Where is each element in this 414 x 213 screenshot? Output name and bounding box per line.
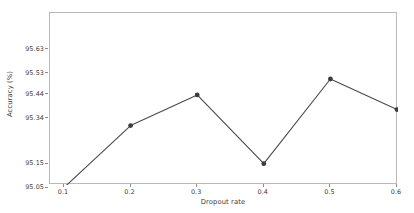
x-tick-label: 0.1: [58, 189, 68, 195]
x-tick-label: 0.2: [124, 189, 134, 195]
x-tick-label: 0.4: [258, 189, 268, 195]
x-tick-mark: [130, 184, 131, 187]
x-axis-title: Dropout rate: [49, 198, 397, 206]
data-series-line: [50, 13, 398, 185]
data-point-marker: [261, 161, 266, 166]
x-tick-mark: [63, 184, 64, 187]
line-path: [64, 79, 397, 185]
x-tick-label: 0.5: [324, 189, 334, 195]
y-tick-label: 95.05: [25, 184, 44, 190]
plot-area: [49, 12, 397, 184]
x-tick-mark: [329, 184, 330, 187]
data-point-marker: [195, 93, 200, 98]
y-tick-label: 95.15: [25, 160, 44, 166]
figure-canvas: 95.63 95.53 95.44 95.34 95.15 95.05 0.1 …: [0, 0, 414, 213]
y-tick-label: 95.63: [25, 46, 44, 52]
y-tick-mark: [45, 93, 48, 94]
y-tick-label: 95.44: [25, 91, 44, 97]
data-point-marker: [328, 77, 333, 82]
y-tick-mark: [45, 117, 48, 118]
y-axis-title: Accuracy (%): [6, 51, 14, 137]
y-tick-mark: [45, 72, 48, 73]
data-point-marker: [395, 107, 398, 112]
x-tick-mark: [396, 184, 397, 187]
y-tick-mark: [45, 187, 48, 188]
y-tick-label: 95.34: [25, 115, 44, 121]
data-point-marker: [128, 123, 133, 128]
x-tick-label: 0.3: [191, 189, 201, 195]
y-tick-mark: [45, 48, 48, 49]
y-tick-mark: [45, 163, 48, 164]
x-tick-label: 0.6: [391, 189, 401, 195]
x-tick-mark: [263, 184, 264, 187]
x-tick-mark: [196, 184, 197, 187]
y-tick-label: 95.53: [25, 70, 44, 76]
